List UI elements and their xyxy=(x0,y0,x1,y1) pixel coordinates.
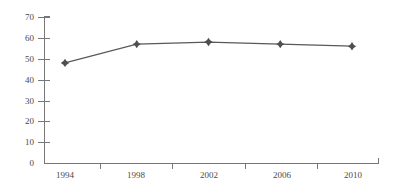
data-point-2006 xyxy=(276,40,284,48)
series-layer xyxy=(0,0,401,189)
line-chart: 70 60 50 40 30 20 10 0 1994 1998 2002 20… xyxy=(0,0,401,189)
data-point-1994 xyxy=(61,59,69,67)
data-point-2002 xyxy=(204,38,212,46)
data-point-2010 xyxy=(348,42,356,50)
data-point-1998 xyxy=(133,40,141,48)
